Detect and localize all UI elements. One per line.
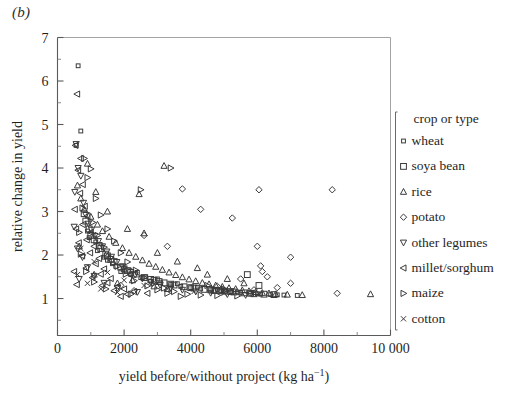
- legend-title: crop or type: [414, 111, 479, 126]
- y-axis-title: relative change in yield: [10, 121, 25, 252]
- legend-label: other legumes: [412, 235, 488, 250]
- legend-item-cotton[interactable]: cotton: [401, 311, 446, 326]
- x-tick-label: 6000: [243, 341, 271, 356]
- data-point: [256, 187, 262, 193]
- data-point: [274, 284, 280, 290]
- data-point: [104, 208, 110, 214]
- legend-item-rice[interactable]: rice: [400, 184, 431, 199]
- data-point: [85, 281, 90, 286]
- legend-item-millet-sorghum[interactable]: millet/sorghum: [400, 260, 494, 275]
- data-point: [185, 291, 191, 297]
- data-point: [153, 263, 159, 269]
- data-point: [161, 163, 167, 169]
- legend-marker-triangle-up: [400, 189, 406, 195]
- data-point: [105, 226, 111, 232]
- legend-marker-cross-x: [401, 316, 406, 321]
- data-point: [264, 274, 270, 280]
- scatter-plot: 0200040006000800010 0001234567yield befo…: [0, 0, 520, 408]
- data-point: [92, 261, 98, 267]
- data-point: [121, 286, 127, 292]
- data-point: [178, 293, 184, 299]
- legend-item-other-legumes[interactable]: other legumes: [400, 235, 487, 250]
- legend-marker-diamond: [400, 214, 406, 220]
- x-axis-title: yield before/without project (kg ha−1): [119, 366, 330, 385]
- y-tick-label: 2: [42, 248, 49, 263]
- axis-labels-group: 0200040006000800010 0001234567yield befo…: [10, 31, 410, 385]
- data-point: [125, 259, 131, 265]
- data-point: [139, 257, 145, 263]
- data-point: [93, 195, 99, 201]
- data-point: [154, 250, 160, 256]
- data-point: [164, 243, 170, 249]
- data-point: [85, 174, 91, 180]
- data-point: [79, 129, 83, 133]
- legend-label: millet/sorghum: [412, 260, 495, 275]
- x-tick-label: 8000: [310, 341, 338, 356]
- data-point: [259, 268, 265, 274]
- data-point: [168, 165, 174, 171]
- data-point: [77, 229, 83, 235]
- series-millet-sorghum: [71, 91, 150, 299]
- data-point: [82, 155, 88, 161]
- data-point: [198, 292, 204, 298]
- data-point: [299, 292, 305, 298]
- data-point: [84, 160, 90, 166]
- data-point: [284, 291, 290, 297]
- data-point: [144, 290, 150, 296]
- data-point: [74, 282, 80, 288]
- data-point: [124, 226, 130, 232]
- data-point: [179, 186, 185, 192]
- legend-item-potato[interactable]: potato: [400, 209, 445, 224]
- data-point: [97, 271, 103, 277]
- y-tick-label: 4: [42, 161, 49, 176]
- y-tick-label: 7: [42, 31, 49, 46]
- data-point: [193, 278, 199, 284]
- data-point: [287, 280, 293, 286]
- data-point: [204, 271, 210, 277]
- data-point: [295, 294, 299, 298]
- data-point: [98, 212, 104, 218]
- data-point: [93, 189, 99, 195]
- data-point: [367, 291, 373, 297]
- data-point: [194, 265, 200, 271]
- data-point: [329, 187, 335, 193]
- legend-marker-triangle-left: [400, 265, 406, 271]
- data-point: [159, 267, 165, 273]
- x-tick-label: 0: [54, 341, 61, 356]
- y-tick-label: 5: [42, 118, 49, 133]
- data-point: [119, 245, 125, 251]
- data-point: [229, 215, 235, 221]
- data-point: [76, 64, 80, 68]
- legend-item-maize[interactable]: maize: [401, 285, 444, 300]
- data-point: [138, 187, 144, 193]
- data-point: [72, 189, 78, 195]
- data-point: [88, 166, 94, 172]
- data-point: [98, 286, 103, 291]
- legend-item-wheat[interactable]: wheat: [402, 133, 444, 148]
- data-point: [78, 173, 84, 179]
- data-point: [179, 274, 185, 280]
- data-point: [117, 293, 123, 299]
- legend-label: maize: [412, 285, 444, 300]
- data-point: [166, 269, 172, 275]
- y-tick-label: 1: [42, 292, 49, 307]
- figure-panel-b: (b) 0200040006000800010 0001234567yield …: [0, 0, 520, 408]
- data-point: [287, 254, 293, 260]
- y-tick-label: 6: [42, 74, 49, 89]
- legend-marker-small-square: [402, 139, 406, 143]
- data-point: [186, 276, 192, 282]
- legend-label: wheat: [412, 133, 444, 148]
- data-point: [256, 283, 262, 289]
- legend-marker-triangle-right: [401, 290, 407, 296]
- y-tick-label: 3: [42, 205, 49, 220]
- legend-marker-square: [401, 164, 407, 170]
- legend-label: soya bean: [412, 158, 466, 173]
- x-tick-label: 4000: [177, 341, 205, 356]
- data-point: [257, 263, 263, 269]
- data-point: [172, 288, 178, 294]
- data-point: [126, 250, 132, 256]
- legend-item-soya-bean[interactable]: soya bean: [401, 158, 466, 173]
- series-rice: [74, 160, 373, 297]
- x-tick-label: 10 000: [371, 341, 410, 356]
- data-point: [224, 276, 230, 282]
